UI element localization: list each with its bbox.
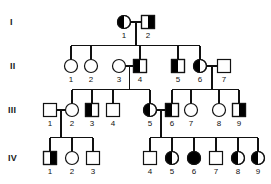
individual-iv-5[interactable] [165,151,179,166]
individual-ii-5[interactable] [171,59,185,74]
individual-iv-8[interactable] [231,151,245,166]
individual-ii-4[interactable] [133,59,147,74]
circle-symbol-icon [185,104,198,117]
individual-iii-2[interactable] [66,104,79,117]
individual-iv-6[interactable] [187,151,202,166]
individual-label-iv-1: 1 [43,167,57,176]
circle-symbol-icon [213,104,226,117]
individual-iv-2[interactable] [66,152,79,165]
individual-label-ii-6: 6 [193,75,207,84]
generation-label-iii: III [8,105,16,115]
pedigree-chart: 121234567123456789123456789IIIIIIIV [0,0,271,184]
individual-iii-9[interactable] [233,103,247,118]
individual-label-iv-4: 4 [143,167,157,176]
square-symbol-icon [107,104,120,117]
individual-i-1[interactable] [117,15,131,30]
square-symbol-icon [210,152,223,165]
generation-label-i: I [10,17,13,27]
individual-iii-5[interactable] [143,103,157,118]
generation-label-iv: IV [8,153,17,163]
individual-label-iii-1: 1 [43,119,57,128]
individual-label-iii-6: 6 [165,119,179,128]
individual-iii-7[interactable] [185,104,198,117]
individual-label-ii-2: 2 [84,75,98,84]
square-symbol-icon [44,104,57,117]
individual-ii-7[interactable] [218,60,231,73]
pedigree-canvas [0,0,271,184]
individual-label-iv-3: 3 [86,167,100,176]
individual-iii-4[interactable] [107,104,120,117]
individual-label-iii-2: 2 [65,119,79,128]
circle-symbol-icon [66,152,79,165]
individual-label-ii-5: 5 [171,75,185,84]
individual-iv-4[interactable] [144,152,157,165]
individual-iv-1[interactable] [44,151,58,166]
individual-label-iii-7: 7 [184,119,198,128]
circle-symbol-icon [66,104,79,117]
individual-label-ii-3: 3 [112,75,126,84]
individual-iv-3[interactable] [87,152,100,165]
individual-label-iv-7: 7 [209,167,223,176]
individual-label-iii-9: 9 [232,119,246,128]
individual-label-iv-2: 2 [65,167,79,176]
individual-i-2[interactable] [142,15,156,30]
square-symbol-icon [218,60,231,73]
circle-symbol-icon [113,60,126,73]
individual-iv-7[interactable] [210,152,223,165]
individual-label-iv-5: 5 [165,167,179,176]
generation-label-ii: II [10,61,16,71]
individual-label-iii-3: 3 [85,119,99,128]
individual-label-iv-6: 6 [187,167,201,176]
individual-label-ii-7: 7 [217,75,231,84]
individual-ii-2[interactable] [85,60,98,73]
individual-iii-8[interactable] [213,104,226,117]
individual-iii-3[interactable] [85,103,99,118]
individual-label-i-2: 2 [141,31,155,40]
individual-iii-1[interactable] [44,104,57,117]
individual-label-ii-1: 1 [64,75,78,84]
individual-iv-9[interactable] [251,151,265,166]
individual-label-i-1: 1 [117,31,131,40]
individual-label-ii-4: 4 [133,75,147,84]
square-symbol-icon [87,152,100,165]
individual-label-iii-4: 4 [106,119,120,128]
square-symbol-icon [144,152,157,165]
circle-symbol-icon [65,60,78,73]
individual-label-iv-9: 9 [251,167,265,176]
individual-ii-6[interactable] [193,59,207,74]
individual-label-iii-8: 8 [212,119,226,128]
individual-ii-3[interactable] [113,60,126,73]
symbol-fill-filled [187,151,202,166]
individual-ii-1[interactable] [65,60,78,73]
circle-symbol-icon [85,60,98,73]
individual-label-iii-5: 5 [143,119,157,128]
individual-iii-6[interactable] [165,103,179,118]
individual-label-iv-8: 8 [231,167,245,176]
